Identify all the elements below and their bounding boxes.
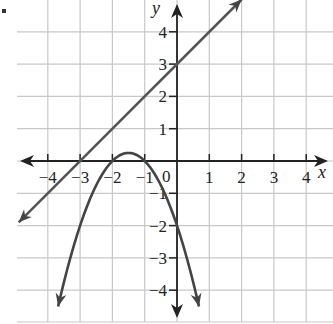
svg-text:1: 1 [159,120,168,139]
svg-text:−4: −4 [39,168,58,187]
svg-text:1: 1 [205,168,214,187]
svg-text:2: 2 [237,168,246,187]
plotted-curves [15,0,246,308]
origin-label: 0 [162,167,171,186]
svg-text:−3: −3 [149,249,167,268]
svg-text:3: 3 [270,168,279,187]
svg-text:−2: −2 [149,217,167,236]
x-axis-label: x [317,162,326,182]
svg-text:2: 2 [159,87,168,106]
svg-text:−4: −4 [149,281,168,300]
svg-text:−3: −3 [71,168,89,187]
svg-text:3: 3 [159,55,168,74]
coordinate-plane-chart: −4−3−2−11234−4−3−2−11234 x y 0 [0,0,333,324]
y-axis-label: y [150,0,160,18]
svg-text:4: 4 [302,168,311,187]
bullet-marker [2,9,6,13]
svg-text:4: 4 [159,23,168,42]
svg-text:−2: −2 [103,168,121,187]
